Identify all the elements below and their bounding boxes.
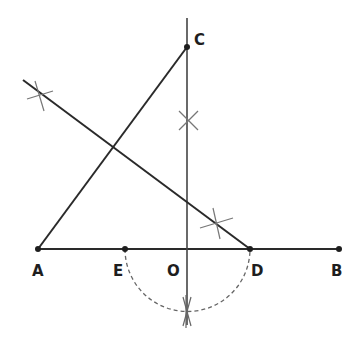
geometry-diagram: C A E O D B: [0, 0, 355, 341]
label-C: C: [194, 31, 205, 49]
point-E: [122, 246, 128, 252]
point-A: [35, 246, 41, 252]
construction-mark-near-D: [200, 208, 233, 239]
point-C: [184, 44, 190, 50]
construction-mark-perpendicular: [179, 111, 198, 130]
point-B: [336, 246, 342, 252]
label-E: E: [113, 262, 123, 280]
label-O: O: [167, 262, 180, 280]
point-D: [247, 246, 253, 252]
label-D: D: [251, 262, 263, 280]
segment-AC: [38, 47, 187, 249]
label-A: A: [32, 262, 44, 280]
label-B: B: [331, 262, 342, 280]
